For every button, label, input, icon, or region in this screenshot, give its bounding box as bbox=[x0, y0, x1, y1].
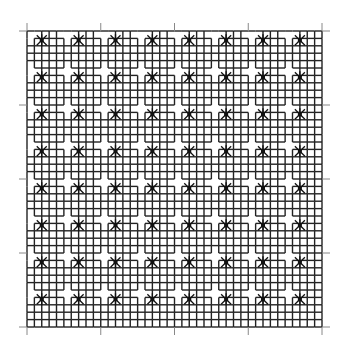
star-icon bbox=[74, 34, 84, 46]
star-icon bbox=[184, 71, 194, 83]
star-icon bbox=[147, 293, 157, 305]
star-icon bbox=[295, 145, 305, 157]
star-icon bbox=[74, 256, 84, 268]
star-icon bbox=[147, 256, 157, 268]
star-icon bbox=[258, 182, 268, 194]
star-icon bbox=[258, 108, 268, 120]
star-icon bbox=[74, 145, 84, 157]
star-icon bbox=[37, 256, 47, 268]
star-icon bbox=[295, 34, 305, 46]
star-icon bbox=[184, 219, 194, 231]
star-icon bbox=[37, 293, 47, 305]
star-icon bbox=[221, 145, 231, 157]
star-icon bbox=[295, 108, 305, 120]
lattice-lines bbox=[27, 31, 322, 327]
star-icon bbox=[184, 293, 194, 305]
star-icon bbox=[74, 182, 84, 194]
star-icon bbox=[221, 219, 231, 231]
star-icon bbox=[111, 219, 121, 231]
star-icon bbox=[74, 71, 84, 83]
star-icon bbox=[37, 219, 47, 231]
star-icon bbox=[37, 145, 47, 157]
star-icon bbox=[37, 108, 47, 120]
star-icon bbox=[147, 182, 157, 194]
star-icon bbox=[74, 108, 84, 120]
star-icon bbox=[111, 34, 121, 46]
star-icon bbox=[295, 293, 305, 305]
star-icon bbox=[111, 182, 121, 194]
star-icon bbox=[295, 71, 305, 83]
star-icon bbox=[37, 182, 47, 194]
star-icon bbox=[221, 34, 231, 46]
star-icon bbox=[221, 108, 231, 120]
star-icon bbox=[111, 145, 121, 157]
star-icon bbox=[258, 71, 268, 83]
star-icon bbox=[221, 71, 231, 83]
star-icon bbox=[184, 145, 194, 157]
star-icon bbox=[258, 219, 268, 231]
star-icon bbox=[111, 256, 121, 268]
star-icon bbox=[184, 256, 194, 268]
star-icon bbox=[147, 219, 157, 231]
star-icon bbox=[295, 219, 305, 231]
star-icon bbox=[111, 293, 121, 305]
star-icon bbox=[221, 182, 231, 194]
star-icon bbox=[111, 108, 121, 120]
star-icon bbox=[295, 256, 305, 268]
star-icon bbox=[184, 182, 194, 194]
star-icon bbox=[147, 34, 157, 46]
star-icon bbox=[37, 71, 47, 83]
star-icon bbox=[258, 145, 268, 157]
star-icon bbox=[258, 256, 268, 268]
star-icon bbox=[295, 182, 305, 194]
star-icon bbox=[184, 108, 194, 120]
star-icon bbox=[147, 108, 157, 120]
star-icon bbox=[221, 256, 231, 268]
star-icon bbox=[258, 293, 268, 305]
star-icon bbox=[221, 293, 231, 305]
star-icon bbox=[147, 145, 157, 157]
star-icon bbox=[74, 293, 84, 305]
star-icon bbox=[184, 34, 194, 46]
star-icon bbox=[111, 71, 121, 83]
star-icon bbox=[37, 34, 47, 46]
star-icon bbox=[258, 34, 268, 46]
lattice-figure bbox=[0, 0, 347, 361]
star-icon bbox=[74, 219, 84, 231]
star-icon bbox=[147, 71, 157, 83]
